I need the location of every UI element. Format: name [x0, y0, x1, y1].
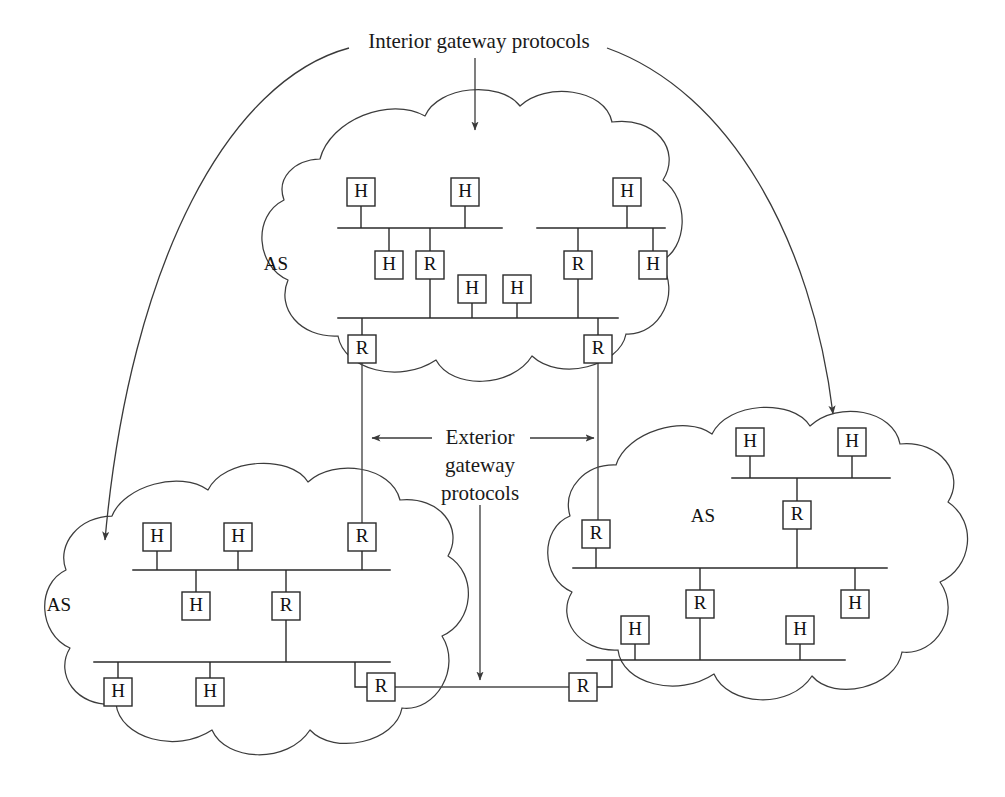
node-h[interactable]: H: [347, 178, 375, 206]
exterior-label-line-1: Exterior: [446, 425, 515, 449]
node-label: H: [620, 180, 634, 201]
node-r-border[interactable]: R: [367, 673, 395, 701]
node-label: R: [356, 337, 369, 358]
node-label: H: [510, 277, 524, 298]
as-bottom-left-network: H H R H R H H: [94, 523, 395, 706]
node-label: H: [354, 180, 368, 201]
node-h[interactable]: H: [375, 251, 403, 279]
node-label: R: [375, 675, 388, 696]
node-h[interactable]: H: [458, 275, 486, 303]
node-label: R: [280, 594, 293, 615]
node-r-border[interactable]: R: [582, 520, 610, 548]
node-label: H: [382, 253, 396, 274]
node-label: H: [845, 430, 859, 451]
cloud-outlines: [45, 90, 968, 755]
node-label: H: [189, 594, 203, 615]
node-h[interactable]: H: [503, 275, 531, 303]
interior-arrow-to-bottom-left: [105, 48, 349, 540]
node-r[interactable]: R: [416, 251, 444, 279]
node-r[interactable]: R: [348, 335, 376, 363]
annotation-arrows: [105, 48, 833, 680]
node-r[interactable]: R: [272, 592, 300, 620]
as-top-network: H H H R H R: [338, 178, 667, 363]
node-label: R: [592, 337, 605, 358]
node-label: H: [150, 525, 164, 546]
node-r[interactable]: R: [348, 523, 376, 551]
node-label: R: [590, 522, 603, 543]
node-label: R: [424, 253, 437, 274]
node-h[interactable]: H: [639, 251, 667, 279]
node-label: R: [572, 253, 585, 274]
node-label: H: [646, 253, 660, 274]
node-r[interactable]: R: [564, 251, 592, 279]
drop-step-to-border-router: [355, 662, 367, 687]
node-h[interactable]: H: [621, 616, 649, 644]
node-label: H: [458, 180, 472, 201]
node-h[interactable]: H: [838, 428, 866, 456]
diagram-svg: AS AS AS: [0, 0, 1005, 797]
node-h[interactable]: H: [736, 428, 764, 456]
node-h[interactable]: H: [143, 523, 171, 551]
node-r-border[interactable]: R: [569, 673, 597, 701]
node-r[interactable]: R: [584, 335, 612, 363]
node-label: R: [791, 503, 804, 524]
node-r[interactable]: R: [783, 501, 811, 529]
node-h[interactable]: H: [182, 592, 210, 620]
node-h[interactable]: H: [104, 678, 132, 706]
figure-title: Interior gateway protocols: [368, 29, 590, 53]
node-label: H: [465, 277, 479, 298]
node-label: H: [111, 680, 125, 701]
node-label: H: [203, 680, 217, 701]
drop-step-to-border-router: [597, 660, 612, 687]
node-r[interactable]: R: [686, 590, 714, 618]
node-label: H: [793, 618, 807, 639]
node-h[interactable]: H: [196, 678, 224, 706]
as-label-bottom-right: AS: [691, 505, 715, 526]
interior-arrow-to-bottom-right: [607, 48, 833, 414]
node-h[interactable]: H: [613, 178, 641, 206]
node-label: H: [743, 430, 757, 451]
node-label: R: [694, 592, 707, 613]
as-label-top: AS: [264, 253, 288, 274]
exterior-label-line-2: gateway: [445, 453, 515, 477]
node-label: H: [231, 525, 245, 546]
network-diagram-canvas: AS AS AS: [0, 0, 1005, 797]
exterior-label-line-3: protocols: [441, 481, 519, 505]
node-label: H: [628, 618, 642, 639]
as-bottom-right-network: H H R R R H H: [569, 428, 890, 701]
node-label: R: [577, 675, 590, 696]
node-label: R: [356, 525, 369, 546]
node-h[interactable]: H: [224, 523, 252, 551]
node-h[interactable]: H: [786, 616, 814, 644]
node-h[interactable]: H: [841, 590, 869, 618]
as-label-bottom-left: AS: [47, 594, 71, 615]
node-h[interactable]: H: [451, 178, 479, 206]
cloud-as-top: [262, 90, 682, 382]
as-labels: AS AS AS: [47, 253, 715, 615]
node-label: H: [848, 592, 862, 613]
